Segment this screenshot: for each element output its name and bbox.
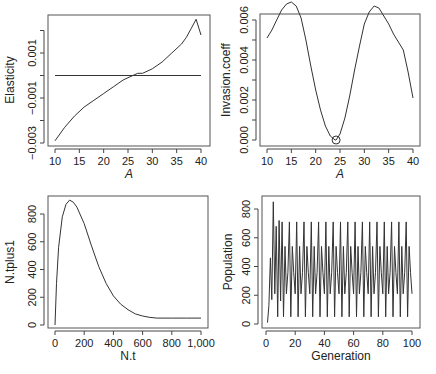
y-tick-label: 600 bbox=[26, 233, 38, 251]
x-tick-label: 25 bbox=[122, 155, 134, 167]
recruitment-curve-series bbox=[55, 200, 201, 325]
y-tick-label: −0.003 bbox=[26, 126, 38, 160]
x-tick-label: 35 bbox=[171, 155, 183, 167]
invasion-coefficient-series bbox=[267, 2, 413, 140]
y-tick-label: 200 bbox=[240, 286, 252, 304]
x-axis: 10152025303540 bbox=[49, 149, 207, 167]
x-tick-label: 200 bbox=[75, 337, 93, 349]
y-tick-label: 0.001 bbox=[26, 39, 38, 67]
x-tick-label: 20 bbox=[98, 155, 110, 167]
x-axis-title: A bbox=[335, 167, 344, 181]
x-axis-title: A bbox=[124, 167, 133, 181]
plot-frame bbox=[48, 15, 210, 146]
x-tick-label: 1,000 bbox=[187, 337, 215, 349]
plot-frame bbox=[48, 196, 208, 328]
x-tick-label: 800 bbox=[163, 337, 181, 349]
x-tick-label: 30 bbox=[358, 155, 370, 167]
y-tick-label: 0.004 bbox=[238, 46, 250, 74]
recruitment-plot: 02004006008001,0000200400600800N.tN.tplu… bbox=[3, 196, 215, 363]
y-axis-title: Invasion.coeff bbox=[219, 42, 233, 116]
x-tick-label: 0 bbox=[52, 337, 58, 349]
y-axis-title: Elasticity bbox=[3, 56, 17, 103]
y-axis: −0.003−0.0010.001 bbox=[26, 31, 44, 160]
x-tick-label: 40 bbox=[195, 155, 207, 167]
x-tick-label: 60 bbox=[347, 337, 359, 349]
y-tick-label: 400 bbox=[240, 257, 252, 275]
plot-frame bbox=[260, 14, 420, 146]
y-tick-label: 0 bbox=[240, 321, 252, 327]
y-tick-label: 600 bbox=[240, 229, 252, 247]
x-tick-label: 10 bbox=[261, 155, 273, 167]
x-tick-label: 100 bbox=[403, 337, 421, 349]
x-tick-label: 25 bbox=[334, 155, 346, 167]
x-tick-label: 400 bbox=[104, 337, 122, 349]
y-axis-title: Population bbox=[221, 234, 235, 291]
x-tick-label: 30 bbox=[146, 155, 158, 167]
y-axis: 0.0000.0020.0040.006 bbox=[238, 6, 256, 154]
y-tick-label: 0 bbox=[26, 322, 38, 328]
y-tick-label: 800 bbox=[240, 200, 252, 218]
y-tick-label: 800 bbox=[26, 205, 38, 223]
invasion-coeff-plot: 101520253035400.0000.0020.0040.006AInvas… bbox=[219, 2, 420, 181]
x-tick-label: 0 bbox=[263, 337, 269, 349]
y-tick-label: 400 bbox=[26, 260, 38, 278]
y-tick-label: 0.002 bbox=[238, 86, 250, 114]
chart-figure: 10152025303540−0.003−0.0010.001AElastici… bbox=[0, 0, 436, 374]
y-axis: 0200400600800 bbox=[240, 200, 258, 327]
y-tick-label: 0.006 bbox=[238, 6, 250, 34]
y-tick-label: 200 bbox=[26, 288, 38, 306]
population-plot: 0204060801000200400600800GenerationPopul… bbox=[221, 196, 421, 363]
y-tick-label: −0.001 bbox=[26, 81, 38, 115]
y-axis: 0200400600800 bbox=[26, 205, 44, 328]
x-axis: 020406080100 bbox=[263, 331, 421, 349]
x-axis-title: N.t bbox=[120, 349, 136, 363]
x-tick-label: 20 bbox=[310, 155, 322, 167]
x-tick-label: 20 bbox=[289, 337, 301, 349]
x-axis: 02004006008001,000 bbox=[52, 331, 215, 349]
x-tick-label: 10 bbox=[49, 155, 61, 167]
x-tick-label: 600 bbox=[133, 337, 151, 349]
elasticity-series bbox=[55, 19, 201, 141]
y-tick-label: 0.000 bbox=[238, 126, 250, 154]
population-series bbox=[268, 202, 413, 323]
elasticity-plot: 10152025303540−0.003−0.0010.001AElastici… bbox=[3, 15, 210, 181]
y-axis-title: N.tplus1 bbox=[3, 240, 17, 284]
x-axis-title: Generation bbox=[311, 349, 370, 363]
x-tick-label: 35 bbox=[383, 155, 395, 167]
x-tick-label: 80 bbox=[377, 337, 389, 349]
x-axis: 10152025303540 bbox=[261, 149, 419, 167]
x-tick-label: 40 bbox=[318, 337, 330, 349]
x-tick-label: 15 bbox=[285, 155, 297, 167]
x-tick-label: 15 bbox=[73, 155, 85, 167]
x-tick-label: 40 bbox=[407, 155, 419, 167]
